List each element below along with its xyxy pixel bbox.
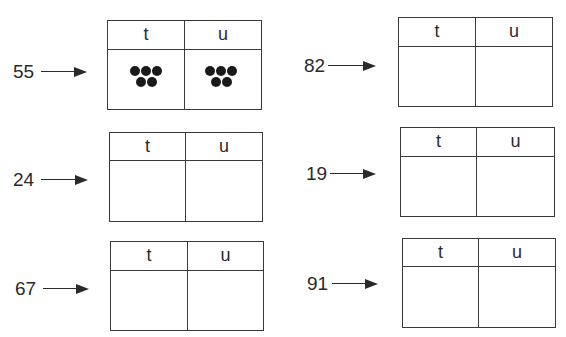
number-label: 55 (13, 62, 34, 82)
place-value-chart: t u (107, 20, 262, 110)
arrow-icon (41, 67, 87, 77)
number-label: 91 (307, 274, 328, 294)
number-label: 24 (13, 170, 34, 190)
tens-header: t (403, 239, 478, 265)
tens-header: t (399, 18, 475, 45)
units-counters (205, 66, 237, 87)
place-value-chart[interactable]: t u (109, 132, 263, 222)
units-header: u (479, 239, 555, 265)
arrow-icon (41, 175, 88, 185)
place-value-chart[interactable]: t u (402, 238, 556, 328)
arrow-icon (43, 284, 89, 294)
tens-header: t (111, 242, 187, 269)
number-label: 82 (304, 56, 325, 76)
number-label: 19 (306, 164, 327, 184)
tens-header: t (110, 133, 185, 159)
arrow-icon (332, 279, 378, 289)
tens-counters (130, 66, 162, 87)
place-value-chart[interactable]: t u (398, 17, 553, 107)
tens-header: t (401, 128, 476, 155)
number-label: 67 (15, 279, 36, 299)
arrow-icon (328, 61, 376, 71)
units-header: u (477, 128, 554, 155)
units-header: u (476, 18, 552, 45)
units-header: u (185, 21, 261, 48)
units-header: u (188, 242, 263, 269)
tens-header: t (108, 21, 184, 48)
arrow-icon (330, 169, 376, 179)
place-value-chart[interactable]: t u (400, 127, 555, 217)
units-header: u (186, 133, 262, 159)
place-value-chart[interactable]: t u (110, 241, 264, 331)
